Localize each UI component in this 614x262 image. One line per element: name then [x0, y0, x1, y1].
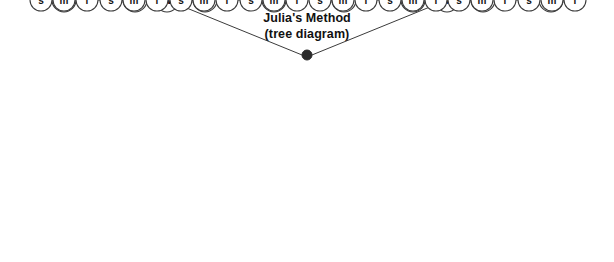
node-leaf-13-m-label: m	[339, 0, 348, 6]
node-leaf-6-s-label: s	[178, 0, 184, 6]
node-leaf-2-l-label: l	[86, 0, 89, 6]
node-leaf-16-m-label: m	[409, 0, 418, 6]
node-leaf-0-s-label: s	[38, 0, 44, 6]
diagram-title-line2: (tree diagram)	[265, 27, 350, 41]
node-leaf-23-l[interactable]: l	[564, 0, 586, 11]
node-leaf-21-s-label: s	[526, 0, 532, 6]
node-leaf-3-s-label: s	[108, 0, 114, 6]
node-leaf-11-l[interactable]: l	[286, 0, 308, 11]
node-leaf-23-l-label: l	[574, 0, 577, 6]
node-leaf-8-l-label: l	[226, 0, 229, 6]
node-leaf-20-l[interactable]: l	[494, 0, 516, 11]
node-leaf-8-l[interactable]: l	[216, 0, 238, 11]
node-root-dot[interactable]	[302, 50, 312, 60]
node-leaf-15-s-label: s	[387, 0, 393, 6]
tree-diagram-canvas: Julia's Method (tree diagram) WMptybptyb…	[0, 0, 614, 262]
node-leaf-3-s[interactable]: s	[100, 0, 122, 11]
node-leaf-11-l-label: l	[296, 0, 299, 6]
node-leaf-19-m-label: m	[478, 0, 487, 6]
node-leaf-9-s[interactable]: s	[240, 0, 262, 11]
node-leaf-18-s-label: s	[456, 0, 462, 6]
node-leaf-15-s[interactable]: s	[379, 0, 401, 11]
node-leaf-21-s[interactable]: s	[518, 0, 540, 11]
node-leaf-2-l[interactable]: l	[76, 0, 98, 11]
tree-diagram-svg: Julia's Method (tree diagram) WMptybptyb…	[0, 0, 614, 262]
node-leaf-9-s-label: s	[248, 0, 254, 6]
node-leaf-4-m-label: m	[130, 0, 139, 6]
node-leaf-5-l-label: l	[156, 0, 159, 6]
node-leaf-1-m-label: m	[60, 0, 69, 6]
node-leaf-10-m-label: m	[270, 0, 279, 6]
node-leaf-12-s[interactable]: s	[309, 0, 331, 11]
node-leaf-14-l[interactable]: l	[355, 0, 377, 11]
node-leaf-17-l-label: l	[435, 0, 438, 6]
node-leaf-14-l-label: l	[365, 0, 368, 6]
node-leaf-22-m-label: m	[548, 0, 557, 6]
node-leaf-12-s-label: s	[317, 0, 323, 6]
node-leaf-7-m-label: m	[200, 0, 209, 6]
node-leaf-20-l-label: l	[504, 0, 507, 6]
node-leaf-0-s[interactable]: s	[30, 0, 52, 11]
diagram-title-line1: Julia's Method	[263, 11, 351, 25]
